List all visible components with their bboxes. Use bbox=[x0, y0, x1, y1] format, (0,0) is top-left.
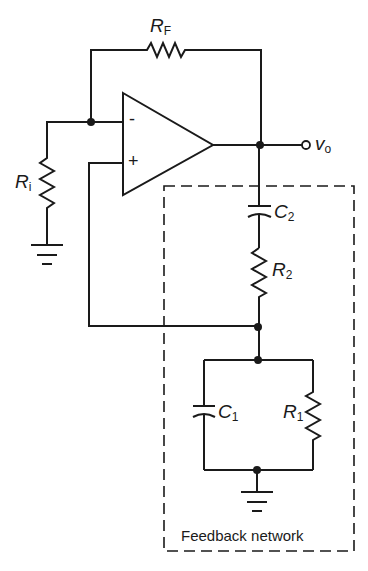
r1-label: R1 bbox=[283, 402, 303, 423]
r2-resistor bbox=[252, 248, 266, 360]
network-ground bbox=[241, 470, 273, 511]
rf-resistor bbox=[91, 43, 261, 145]
ri-label: Ri bbox=[15, 172, 31, 193]
circuit-diagram: RF Ri - + vo C2 R2 C1 R1 Feedback networ… bbox=[0, 0, 368, 571]
feedback-junction-dot bbox=[254, 323, 262, 331]
noninverting-input-sign: + bbox=[128, 152, 139, 170]
positive-feedback-wire bbox=[89, 163, 258, 326]
ri-ground bbox=[31, 245, 63, 264]
r1-resistor bbox=[306, 360, 320, 470]
output-terminal bbox=[302, 141, 310, 149]
c2-capacitor bbox=[248, 145, 271, 248]
c1-label: C1 bbox=[218, 402, 238, 423]
ri-resistor bbox=[40, 122, 123, 245]
inverting-input-sign: - bbox=[129, 110, 135, 128]
c1-capacitor bbox=[193, 360, 215, 470]
r2-label: R2 bbox=[272, 260, 292, 281]
inverting-junction-dot bbox=[87, 118, 95, 126]
feedback-network-label: Feedback network bbox=[181, 528, 304, 543]
opamp-triangle bbox=[123, 93, 213, 195]
vo-label: vo bbox=[315, 134, 331, 155]
schematic-wires bbox=[0, 0, 368, 571]
c2-label: C2 bbox=[274, 202, 294, 223]
rf-label: RF bbox=[150, 16, 171, 37]
